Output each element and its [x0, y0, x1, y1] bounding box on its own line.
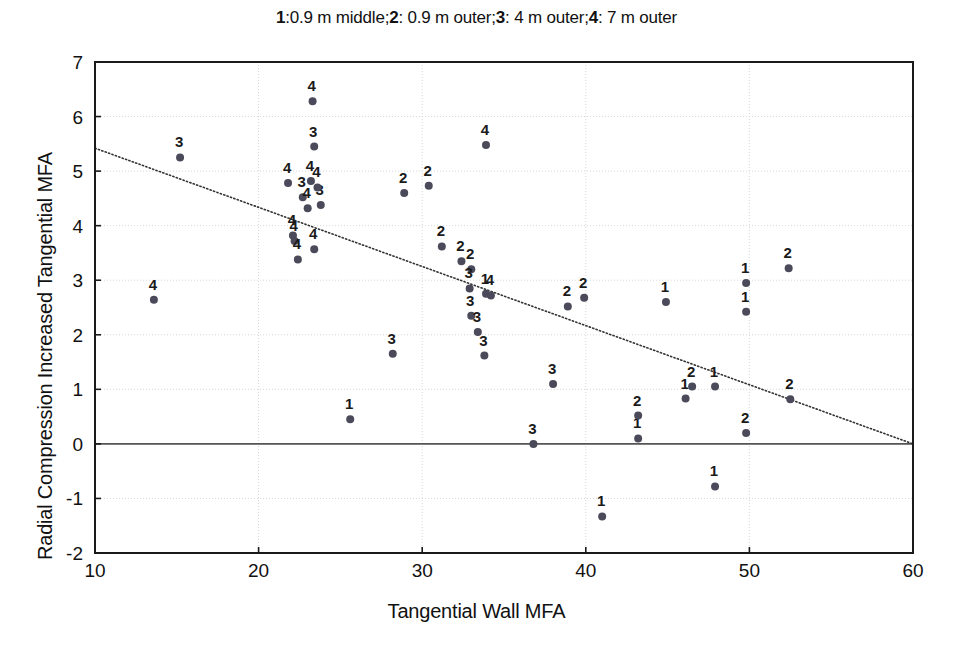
- data-point: 2: [424, 162, 433, 190]
- data-point: 3: [464, 264, 473, 292]
- data-point: 1: [741, 259, 750, 287]
- data-point-label: 1: [741, 259, 749, 276]
- data-point: 1: [661, 278, 670, 306]
- data-point: 4: [312, 163, 321, 191]
- data-point-label: 4: [309, 225, 318, 242]
- data-point: 4: [309, 225, 318, 253]
- data-point: 2: [633, 392, 642, 420]
- data-point-label: 2: [437, 222, 445, 239]
- data-point: 1: [710, 462, 719, 490]
- svg-text:3: 3: [72, 270, 83, 291]
- svg-text:4: 4: [72, 216, 83, 237]
- data-point: 2: [783, 244, 792, 272]
- data-point: 4: [481, 121, 490, 149]
- data-point-label: 4: [486, 271, 495, 288]
- data-point: 3: [479, 332, 488, 360]
- svg-text:-2: -2: [66, 543, 83, 564]
- data-point: 2: [399, 169, 408, 197]
- data-point: 3: [309, 123, 318, 151]
- data-point-label: 1: [661, 278, 669, 295]
- data-point-label: 3: [479, 332, 487, 349]
- data-point-label: 4: [293, 235, 302, 252]
- data-point: 4: [149, 276, 158, 304]
- data-points: 1111111111222222222222333333333334444444…: [149, 77, 795, 520]
- data-point-label: 3: [466, 292, 474, 309]
- data-point-label: 3: [464, 264, 472, 281]
- data-point: 1: [741, 288, 750, 316]
- data-point: 4: [293, 235, 302, 263]
- data-point-label: 2: [466, 245, 474, 262]
- svg-text:30: 30: [412, 560, 433, 581]
- data-point-label: 3: [528, 420, 536, 437]
- svg-text:5: 5: [72, 161, 83, 182]
- data-point-label: 2: [633, 392, 641, 409]
- svg-text:50: 50: [739, 560, 760, 581]
- gridlines: [95, 62, 913, 553]
- svg-text:1: 1: [72, 379, 83, 400]
- data-point-label: 4: [289, 217, 298, 234]
- x-axis-title: Tangential Wall MFA: [0, 600, 953, 623]
- data-point-label: 4: [303, 184, 312, 201]
- data-point: 2: [785, 375, 794, 403]
- data-point: 2: [456, 237, 465, 265]
- data-point: 4: [303, 184, 312, 212]
- data-point-label: 4: [149, 276, 158, 293]
- data-point: 1: [345, 395, 354, 423]
- data-point-label: 1: [345, 395, 353, 412]
- svg-text:10: 10: [84, 560, 105, 581]
- data-point: 3: [175, 133, 184, 161]
- data-point-label: 1: [710, 363, 718, 380]
- data-point-label: 4: [481, 121, 490, 138]
- data-point-label: 1: [597, 492, 605, 509]
- svg-text:40: 40: [575, 560, 596, 581]
- data-point-label: 2: [563, 282, 571, 299]
- plot-frame: [95, 62, 913, 553]
- data-point-label: 1: [741, 288, 749, 305]
- data-point: 2: [563, 282, 572, 310]
- data-point: 4: [307, 77, 316, 105]
- svg-text:0: 0: [72, 434, 83, 455]
- data-point-label: 4: [283, 159, 292, 176]
- data-point-label: 2: [424, 162, 432, 179]
- data-point-label: 2: [687, 363, 695, 380]
- data-point: 2: [579, 274, 588, 302]
- svg-text:7: 7: [72, 52, 83, 73]
- data-point: 1: [597, 492, 606, 520]
- data-point-label: 2: [783, 244, 791, 261]
- data-point-label: 3: [548, 360, 556, 377]
- data-point-label: 3: [388, 330, 396, 347]
- data-point: 2: [687, 363, 696, 391]
- data-point: 2: [741, 409, 750, 437]
- scatter-plot-figure: 1:0.9 m middle;2: 0.9 m outer;3: 4 m out…: [0, 0, 953, 648]
- data-point: 2: [437, 222, 446, 250]
- data-point-label: 1: [710, 462, 718, 479]
- data-point-label: 2: [456, 237, 464, 254]
- data-point: 4: [283, 159, 292, 187]
- data-point: 4: [486, 271, 495, 299]
- data-point: 3: [548, 360, 557, 388]
- data-point: 3: [528, 420, 537, 448]
- data-point-label: 2: [579, 274, 587, 291]
- data-point-label: 2: [741, 409, 749, 426]
- data-point-label: 2: [785, 375, 793, 392]
- data-point-label: 3: [175, 133, 183, 150]
- data-point-label: 2: [399, 169, 407, 186]
- svg-text:6: 6: [72, 107, 83, 128]
- data-point: 1: [710, 363, 719, 391]
- svg-text:-1: -1: [66, 488, 83, 509]
- svg-text:60: 60: [902, 560, 923, 581]
- svg-text:20: 20: [248, 560, 269, 581]
- data-point-label: 3: [473, 308, 481, 325]
- plot-canvas: 102030405060 -2-101234567 11111111112222…: [0, 0, 953, 648]
- data-point-label: 4: [307, 77, 316, 94]
- data-point: 3: [388, 330, 397, 358]
- svg-text:2: 2: [72, 325, 83, 346]
- data-point-label: 3: [309, 123, 317, 140]
- data-point-label: 4: [312, 163, 321, 180]
